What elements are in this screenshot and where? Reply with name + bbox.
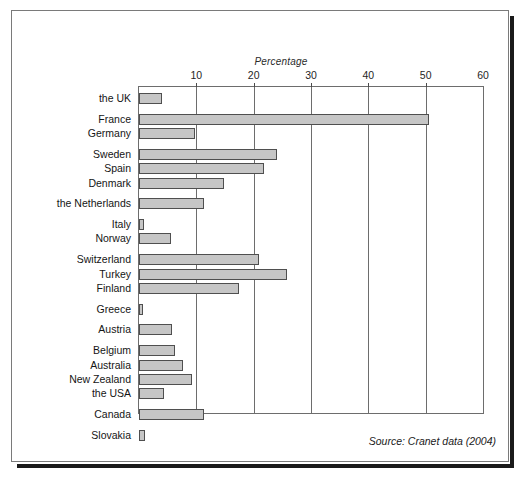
- category-label-the-netherlands: the Netherlands: [12, 198, 131, 209]
- category-label-slovakia: Slovakia: [12, 430, 131, 441]
- frame-shadow-right: [510, 16, 514, 468]
- chart-row: Germany: [12, 128, 510, 139]
- chart-row: Belgium: [12, 345, 510, 356]
- x-tick-label-60: 60: [477, 69, 489, 81]
- bar-the-usa: [139, 388, 164, 399]
- category-label-france: France: [12, 114, 131, 125]
- bar-the-netherlands: [139, 198, 204, 209]
- bar-spain: [139, 163, 264, 174]
- category-label-finland: Finland: [12, 283, 131, 294]
- category-label-spain: Spain: [12, 163, 131, 174]
- category-label-italy: Italy: [12, 219, 131, 230]
- chart-row: Finland: [12, 283, 510, 294]
- bar-switzerland: [139, 254, 259, 265]
- x-tick-label-50: 50: [420, 69, 432, 81]
- chart-row: Turkey: [12, 269, 510, 280]
- x-tick-label-30: 30: [305, 69, 317, 81]
- category-label-the-usa: the USA: [12, 388, 131, 399]
- chart-row: Sweden: [12, 149, 510, 160]
- bar-sweden: [139, 149, 277, 160]
- x-axis-tick-labels: 102030405060: [12, 69, 510, 83]
- figure-frame: Percentage 102030405060 the UKFranceGerm…: [11, 10, 509, 462]
- chart-row: New Zealand: [12, 374, 510, 385]
- bar-italy: [139, 219, 144, 230]
- category-label-turkey: Turkey: [12, 269, 131, 280]
- category-label-switzerland: Switzerland: [12, 254, 131, 265]
- chart-row: Italy: [12, 219, 510, 230]
- x-tick-label-40: 40: [362, 69, 374, 81]
- bar-turkey: [139, 269, 287, 280]
- bar-chart: Percentage 102030405060 the UKFranceGerm…: [12, 11, 510, 463]
- bar-australia: [139, 360, 183, 371]
- chart-row: Australia: [12, 360, 510, 371]
- chart-row: Canada: [12, 409, 510, 420]
- bar-norway: [139, 233, 171, 244]
- source-note: Source: Cranet data (2004): [369, 435, 496, 447]
- bar-germany: [139, 128, 195, 139]
- category-label-germany: Germany: [12, 128, 131, 139]
- bar-new-zealand: [139, 374, 192, 385]
- chart-row: the USA: [12, 388, 510, 399]
- x-tick-label-20: 20: [248, 69, 260, 81]
- chart-row: Norway: [12, 233, 510, 244]
- x-tick-label-10: 10: [190, 69, 202, 81]
- bar-canada: [139, 409, 204, 420]
- category-label-austria: Austria: [12, 324, 131, 335]
- bar-austria: [139, 324, 172, 335]
- category-label-the-uk: the UK: [12, 93, 131, 104]
- chart-row: Spain: [12, 163, 510, 174]
- category-label-norway: Norway: [12, 233, 131, 244]
- bar-greece: [139, 304, 143, 315]
- bar-france: [139, 114, 429, 125]
- chart-row: Austria: [12, 324, 510, 335]
- category-label-canada: Canada: [12, 409, 131, 420]
- category-rows: the UKFranceGermanySwedenSpainDenmarkthe…: [12, 86, 510, 414]
- category-label-belgium: Belgium: [12, 345, 131, 356]
- chart-row: the UK: [12, 93, 510, 104]
- chart-row: France: [12, 114, 510, 125]
- bar-denmark: [139, 178, 224, 189]
- category-label-denmark: Denmark: [12, 178, 131, 189]
- category-label-sweden: Sweden: [12, 149, 131, 160]
- frame-shadow-bottom: [17, 464, 514, 468]
- chart-row: Denmark: [12, 178, 510, 189]
- category-label-new-zealand: New Zealand: [12, 374, 131, 385]
- x-axis-title-label: Percentage: [254, 56, 307, 67]
- x-axis-title: Percentage: [12, 56, 510, 67]
- category-label-greece: Greece: [12, 304, 131, 315]
- bar-the-uk: [139, 93, 162, 104]
- chart-row: the Netherlands: [12, 198, 510, 209]
- bar-finland: [139, 283, 239, 294]
- chart-row: Switzerland: [12, 254, 510, 265]
- bar-belgium: [139, 345, 175, 356]
- bar-slovakia: [139, 430, 145, 441]
- category-label-australia: Australia: [12, 360, 131, 371]
- chart-row: Greece: [12, 304, 510, 315]
- cropped-header-sliver: [0, 0, 531, 7]
